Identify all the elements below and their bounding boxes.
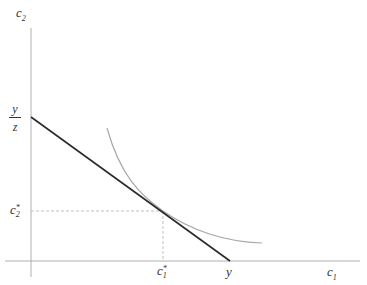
x-axis-label: c1 bbox=[327, 265, 337, 282]
indifference-curve bbox=[107, 128, 262, 243]
c1-star-sub: 1 bbox=[163, 272, 167, 279]
diagram-canvas bbox=[0, 0, 367, 285]
fraction-bar bbox=[9, 117, 21, 118]
y-intercept-label: y z bbox=[9, 103, 21, 133]
x-intercept-text: y bbox=[226, 264, 232, 279]
x-axis-label-sub: 1 bbox=[333, 273, 337, 282]
y-intercept-denominator: z bbox=[13, 120, 18, 134]
y-intercept-numerator: y bbox=[12, 102, 17, 116]
y-axis-label-sub: 2 bbox=[22, 14, 26, 23]
budget-line bbox=[31, 117, 230, 261]
c1-star-label: c*1 bbox=[157, 264, 167, 279]
c2-star-label: c*2 bbox=[10, 203, 20, 218]
c2-star-sub: 2 bbox=[16, 211, 20, 218]
x-intercept-label: y bbox=[226, 265, 232, 278]
y-axis-label: c2 bbox=[16, 6, 26, 23]
